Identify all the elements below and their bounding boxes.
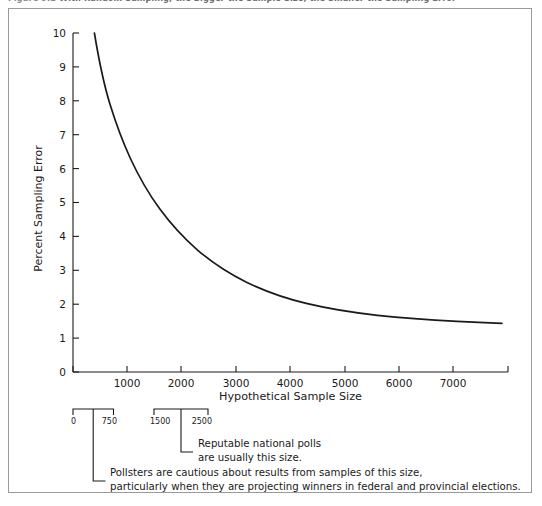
x-tick-label-2000: 2000 (168, 377, 195, 389)
figure-border (8, 8, 532, 493)
national-poll-annotation-line-1: Reputable national polls (198, 437, 321, 452)
y-tick-label-6: 6 (44, 163, 66, 175)
bracket-label-0: 0 (71, 417, 76, 426)
y-tick-label-2: 2 (44, 298, 66, 310)
x-tick-label-4000: 4000 (277, 377, 304, 389)
national-poll-annotation-line-2: are usually this size. (198, 451, 302, 466)
bracket-label-1500: 1500 (150, 417, 170, 426)
x-tick-label-5000: 5000 (332, 377, 359, 389)
y-tick-label-1: 1 (44, 332, 66, 344)
small-sample-annotation-line-2: particularly when they are projecting wi… (110, 480, 521, 495)
figure-caption: Figure 9.2 With Random Sampling, the Big… (8, 0, 538, 5)
small-sample-annotation-line-1: Pollsters are cautious about results fro… (110, 466, 422, 481)
x-tick-label-3000: 3000 (223, 377, 250, 389)
y-tick-label-9: 9 (44, 61, 66, 73)
y-tick-label-7: 7 (44, 129, 66, 141)
x-tick-label-7000: 7000 (440, 377, 467, 389)
y-tick-label-10: 10 (38, 27, 66, 39)
y-tick-label-3: 3 (44, 264, 66, 276)
x-tick-label-1000: 1000 (114, 377, 141, 389)
bracket-label-750: 750 (102, 417, 117, 426)
figure-caption-text: With Random Sampling, the Bigger the Sam… (59, 0, 456, 3)
figure-caption-number: Figure 9.2 (8, 0, 56, 3)
y-tick-label-4: 4 (44, 230, 66, 242)
bracket-label-2500: 2500 (192, 417, 212, 426)
x-tick-label-6000: 6000 (386, 377, 413, 389)
y-tick-label-0: 0 (44, 366, 66, 378)
y-tick-label-8: 8 (44, 95, 66, 107)
y-tick-label-5: 5 (44, 196, 66, 208)
y-axis-title: Percent Sampling Error (32, 129, 45, 289)
x-axis-title: Hypothetical Sample Size (73, 390, 508, 403)
